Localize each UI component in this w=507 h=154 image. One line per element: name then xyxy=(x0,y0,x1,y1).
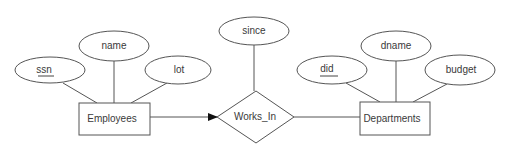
relationship-works-in-label: Works_In xyxy=(234,111,276,122)
er-diagram: ssn name lot since did dname budget Empl… xyxy=(0,0,507,154)
edge-lot-employees xyxy=(131,83,167,103)
relationship-works-in[interactable]: Works_In xyxy=(217,91,294,143)
entity-employees-label: Employees xyxy=(87,113,136,124)
edge-budget-departments xyxy=(413,84,447,102)
attribute-ssn[interactable]: ssn xyxy=(15,57,85,83)
attribute-dname[interactable]: dname xyxy=(361,31,431,61)
attribute-name[interactable]: name xyxy=(79,31,149,61)
attribute-since[interactable]: since xyxy=(219,17,289,45)
attribute-lot[interactable]: lot xyxy=(145,56,211,84)
attribute-dname-label: dname xyxy=(381,40,412,51)
attribute-since-label: since xyxy=(242,25,266,36)
attribute-budget[interactable]: budget xyxy=(425,55,495,85)
edge-did-departments xyxy=(346,83,380,102)
attribute-budget-label: budget xyxy=(446,64,477,75)
attribute-name-label: name xyxy=(101,40,126,51)
attribute-did[interactable]: did xyxy=(297,56,367,84)
edge-ssn-employees xyxy=(63,83,97,103)
attribute-did-label: did xyxy=(320,63,333,74)
entity-departments-label: Departments xyxy=(363,113,420,124)
entity-departments[interactable]: Departments xyxy=(360,102,430,135)
entity-employees[interactable]: Employees xyxy=(79,103,150,135)
attribute-lot-label: lot xyxy=(174,64,185,75)
attribute-ssn-label: ssn xyxy=(36,64,52,75)
